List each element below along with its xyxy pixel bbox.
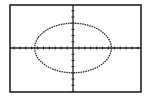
calculator-graph-screen <box>0 0 149 98</box>
x-axis <box>10 47 141 50</box>
